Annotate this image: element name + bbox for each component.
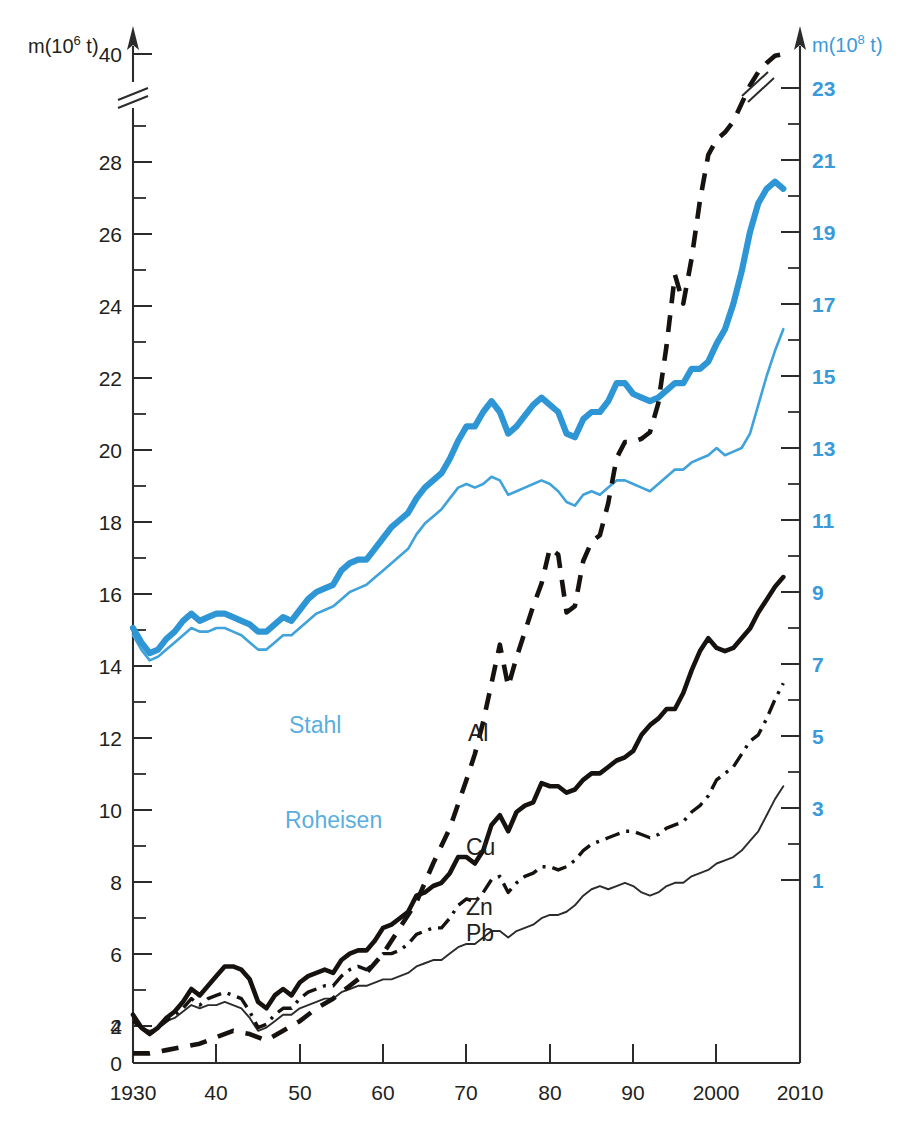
left-tick-label: 16 xyxy=(99,583,122,606)
series-label-pb: Pb xyxy=(466,920,494,946)
series-path-stahl xyxy=(133,182,783,654)
x-tick-label: 60 xyxy=(371,1081,394,1104)
x-axis-ticks xyxy=(133,1044,800,1063)
metal-production-line-chart: 40 28 26 24 22 20 18 16 14 12 10 8 6 4 2… xyxy=(0,0,921,1136)
right-tick-label: 7 xyxy=(812,653,824,676)
left-tick-label: 40 xyxy=(99,43,122,66)
x-tick-label: 70 xyxy=(454,1081,477,1104)
series-path-pb xyxy=(133,786,783,1031)
left-tick-label: 22 xyxy=(99,367,122,390)
x-axis-tick-labels: 1930 40 50 60 70 80 90 2000 2010 xyxy=(110,1081,824,1104)
x-tick-label: 50 xyxy=(288,1081,311,1104)
x-tick-label: 90 xyxy=(621,1081,644,1104)
left-axis-title: m(106 t) xyxy=(28,33,99,57)
right-axis-ticks xyxy=(781,88,800,880)
right-tick-label: 21 xyxy=(812,149,836,172)
left-tick-label: 6 xyxy=(110,943,122,966)
right-tick-label: 9 xyxy=(812,581,824,604)
left-tick-label: 28 xyxy=(99,151,122,174)
left-tick-label: 18 xyxy=(99,511,122,534)
left-tick-label: 20 xyxy=(99,439,122,462)
right-tick-label: 15 xyxy=(812,365,836,388)
left-tick-label: 12 xyxy=(99,727,122,750)
right-tick-label: 1 xyxy=(812,869,824,892)
series-paths xyxy=(133,54,783,1053)
right-tick-label: 11 xyxy=(812,509,835,532)
x-tick-label: 2000 xyxy=(693,1081,740,1104)
right-axis-group xyxy=(781,26,806,1063)
left-axis-ticks xyxy=(133,54,152,1026)
right-axis-tick-labels: 23 21 19 17 15 13 11 9 7 5 3 1 xyxy=(812,77,836,892)
x-axis-group xyxy=(133,1044,800,1063)
left-tick-label-two: 2 xyxy=(110,1015,122,1038)
right-tick-label: 5 xyxy=(812,725,824,748)
left-tick-label: 14 xyxy=(99,655,123,678)
right-tick-label: 19 xyxy=(812,221,835,244)
right-tick-label: 17 xyxy=(812,293,835,316)
x-tick-label: 80 xyxy=(538,1081,561,1104)
left-axis-tick-labels: 40 28 26 24 22 20 18 16 14 12 10 8 6 4 2… xyxy=(99,43,123,1075)
right-tick-label: 3 xyxy=(812,797,824,820)
left-tick-label: 26 xyxy=(99,223,122,246)
series-label-roheisen: Roheisen xyxy=(285,807,382,833)
left-tick-label-zero: 0 xyxy=(110,1052,122,1075)
x-tick-label: 1930 xyxy=(110,1081,157,1104)
right-tick-label: 13 xyxy=(812,437,835,460)
series-label-al: Al xyxy=(468,720,488,746)
x-tick-label: 2010 xyxy=(777,1081,824,1104)
series-label-cu: Cu xyxy=(466,834,495,860)
left-tick-label: 8 xyxy=(110,871,122,894)
chart-page: 40 28 26 24 22 20 18 16 14 12 10 8 6 4 2… xyxy=(0,0,921,1136)
right-axis-title: m(108 t) xyxy=(812,32,883,56)
left-axis-group xyxy=(118,26,152,1063)
left-tick-label: 10 xyxy=(99,799,122,822)
x-tick-label: 40 xyxy=(204,1081,227,1104)
left-tick-label: 24 xyxy=(99,295,123,318)
right-tick-label: 23 xyxy=(812,77,835,100)
left-axis-break-symbol xyxy=(118,82,148,108)
series-label-zn: Zn xyxy=(466,894,493,920)
series-label-stahl: Stahl xyxy=(289,712,341,738)
